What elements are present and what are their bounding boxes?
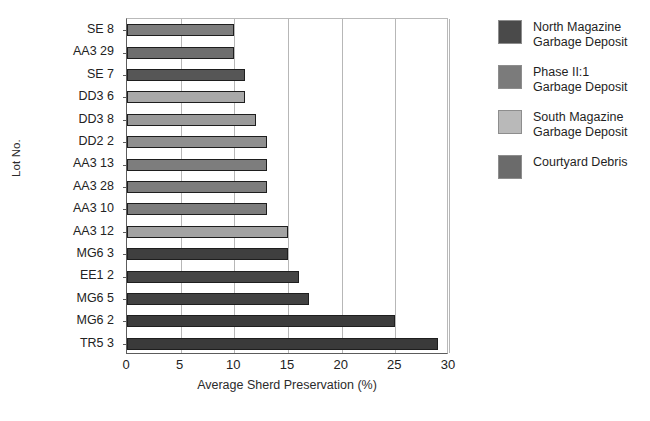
bar-row[interactable] — [127, 153, 447, 175]
bar[interactable] — [127, 315, 395, 327]
bar[interactable] — [127, 293, 309, 305]
y-axis-tick-label: AA3 13 — [73, 152, 114, 174]
chart-legend: North Magazine Garbage DepositPhase II:1… — [498, 20, 648, 194]
legend-swatch — [498, 110, 522, 134]
bar[interactable] — [127, 24, 234, 36]
bar-row[interactable] — [127, 19, 447, 41]
bar[interactable] — [127, 136, 267, 148]
bar-row[interactable] — [127, 333, 447, 355]
bar[interactable] — [127, 114, 256, 126]
bar[interactable] — [127, 159, 267, 171]
y-axis-tick-label: SE 8 — [87, 18, 114, 40]
legend-item[interactable]: Phase II:1 Garbage Deposit — [498, 65, 648, 95]
y-axis-tick-label: AA3 29 — [73, 40, 114, 62]
plot-area — [126, 18, 448, 354]
bar-series — [127, 19, 447, 353]
bar-row[interactable] — [127, 198, 447, 220]
x-axis-tick-label: 20 — [333, 357, 347, 372]
y-axis-tick-label: MG6 3 — [76, 242, 114, 264]
x-axis-tick-label: 15 — [280, 357, 294, 372]
bar[interactable] — [127, 203, 267, 215]
legend-label: Phase II:1 Garbage Deposit — [533, 65, 628, 95]
legend-swatch — [498, 20, 522, 44]
bar-row[interactable] — [127, 265, 447, 287]
bar-row[interactable] — [127, 86, 447, 108]
x-axis-tick-label: 5 — [176, 357, 183, 372]
bar-row[interactable] — [127, 131, 447, 153]
y-axis-tick-label: AA3 12 — [73, 220, 114, 242]
bar-chart-figure: Lot No. SE 8AA3 29SE 7DD3 6DD3 8DD2 2AA3… — [0, 0, 650, 421]
y-axis-tick-label: EE1 2 — [80, 264, 114, 286]
bar-row[interactable] — [127, 64, 447, 86]
legend-item[interactable]: South Magazine Garbage Deposit — [498, 110, 648, 140]
x-axis-tick-label: 25 — [387, 357, 401, 372]
bar[interactable] — [127, 271, 299, 283]
legend-item[interactable]: Courtyard Debris — [498, 155, 648, 179]
legend-label: Courtyard Debris — [533, 155, 627, 170]
bar[interactable] — [127, 47, 234, 59]
bar[interactable] — [127, 248, 288, 260]
bar-row[interactable] — [127, 109, 447, 131]
y-axis-tick-label: SE 7 — [87, 63, 114, 85]
y-axis-tick-label: AA3 28 — [73, 175, 114, 197]
bar[interactable] — [127, 69, 245, 81]
x-axis-title: Average Sherd Preservation (%) — [126, 378, 448, 392]
bar[interactable] — [127, 226, 288, 238]
legend-label: North Magazine Garbage Deposit — [533, 20, 628, 50]
bar-row[interactable] — [127, 41, 447, 63]
y-axis-tick-label: DD2 2 — [79, 130, 114, 152]
gridline — [449, 19, 450, 353]
bar-row[interactable] — [127, 176, 447, 198]
bar-row[interactable] — [127, 221, 447, 243]
x-axis-tick-labels: 051015202530 — [126, 357, 448, 377]
y-axis-tick-label: DD3 6 — [79, 85, 114, 107]
bar-row[interactable] — [127, 288, 447, 310]
legend-item[interactable]: North Magazine Garbage Deposit — [498, 20, 648, 50]
y-axis-tick-label: TR5 3 — [80, 332, 114, 354]
legend-swatch — [498, 65, 522, 89]
y-axis-tick-label: DD3 8 — [79, 108, 114, 130]
bar-row[interactable] — [127, 310, 447, 332]
bar[interactable] — [127, 181, 267, 193]
legend-swatch — [498, 155, 522, 179]
bar[interactable] — [127, 91, 245, 103]
x-axis-tick-label: 30 — [441, 357, 455, 372]
y-axis-tick-labels: SE 8AA3 29SE 7DD3 6DD3 8DD2 2AA3 13AA3 2… — [0, 18, 120, 354]
x-axis-tick-label: 10 — [226, 357, 240, 372]
legend-label: South Magazine Garbage Deposit — [533, 110, 628, 140]
y-axis-tick-label: MG6 2 — [76, 309, 114, 331]
x-axis-tick-label: 0 — [122, 357, 129, 372]
y-axis-tick-label: AA3 10 — [73, 197, 114, 219]
bar-row[interactable] — [127, 243, 447, 265]
y-axis-tick-label: MG6 5 — [76, 287, 114, 309]
bar[interactable] — [127, 338, 438, 350]
